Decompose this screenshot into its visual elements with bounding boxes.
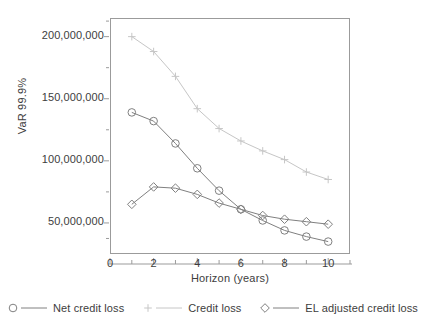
circle-marker-icon	[9, 304, 17, 312]
legend-label: Credit loss	[188, 302, 241, 314]
legend-key	[7, 301, 49, 315]
legend-label: Net credit loss	[53, 302, 124, 314]
legend-key	[259, 301, 301, 315]
legend-key	[142, 301, 184, 315]
chart-canvas	[0, 0, 425, 323]
chart-figure: VaR 99.9% Horizon (years) 50,000,000100,…	[0, 0, 425, 323]
data-series	[128, 183, 333, 229]
legend-label: EL adjusted credit loss	[305, 302, 418, 314]
x-axis-tick-label: 8	[270, 257, 300, 269]
chart-legend: Net credit lossCredit lossEL adjusted cr…	[0, 296, 425, 320]
plus-marker-icon	[303, 168, 311, 176]
x-axis-tick-label: 10	[313, 257, 343, 269]
x-axis-tick-label: 0	[95, 257, 125, 269]
plus-marker-icon	[259, 147, 267, 155]
x-axis-tick-label: 4	[182, 257, 212, 269]
x-axis-tick-label: 6	[226, 257, 256, 269]
plus-marker-icon	[128, 33, 136, 41]
legend-item[interactable]: EL adjusted credit loss	[259, 301, 418, 315]
x-axis-tick-label: 2	[139, 257, 169, 269]
data-series	[128, 33, 332, 183]
plus-marker-icon	[144, 304, 152, 312]
plus-marker-icon	[281, 156, 289, 164]
legend-item[interactable]: Net credit loss	[7, 301, 124, 315]
legend-item[interactable]: Credit loss	[142, 301, 241, 315]
data-series	[128, 109, 332, 246]
plus-marker-icon	[324, 176, 332, 184]
plus-marker-icon	[237, 137, 245, 145]
diamond-marker-icon	[261, 304, 270, 313]
